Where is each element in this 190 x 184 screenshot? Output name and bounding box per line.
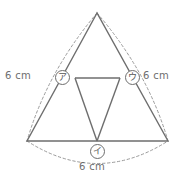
- right-midline: [97, 78, 120, 141]
- marker-badge-b: イ: [90, 144, 105, 159]
- left-midline: [75, 78, 97, 141]
- geometry-figure: 6 cm 6 cm 6 cm ア ウ イ: [0, 0, 190, 184]
- right-measurement-label: 6 cm: [143, 71, 169, 81]
- marker-badge-a: ア: [55, 70, 70, 85]
- bottom-measurement-label: 6 cm: [79, 162, 105, 172]
- marker-badge-c: ウ: [125, 70, 140, 85]
- left-measurement-label: 6 cm: [5, 71, 31, 81]
